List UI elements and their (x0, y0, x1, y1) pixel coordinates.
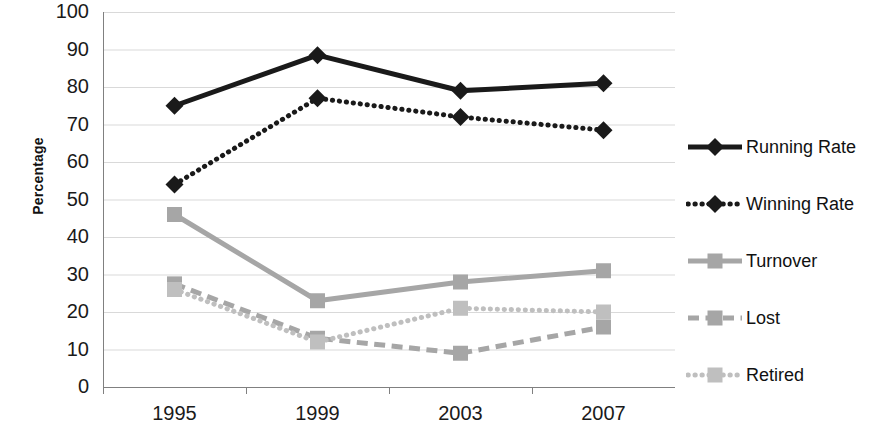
x-axis-tick-1995: 1995 (115, 402, 235, 425)
y-axis-tick-20: 20 (37, 301, 89, 321)
legend-label-turnover: Turnover (744, 251, 817, 272)
legend-swatch-lost (686, 307, 744, 329)
marker-turnover (310, 293, 325, 308)
series-line-lost (175, 284, 604, 353)
legend-swatch-retired (686, 364, 744, 386)
marker-retired (167, 282, 182, 297)
y-axis-tick-90: 90 (37, 39, 89, 59)
marker-turnover (167, 207, 182, 222)
y-axis-tick-80: 80 (37, 76, 89, 96)
legend-label-lost: Lost (744, 308, 780, 329)
marker-retired (453, 301, 468, 316)
legend-marker-running-rate (706, 138, 724, 156)
marker-lost (596, 320, 611, 335)
legend-item-lost[interactable]: Lost (686, 301, 870, 335)
marker-retired (310, 335, 325, 350)
legend-marker-winning-rate (706, 195, 724, 213)
line-chart: Percentage 1009080706050403020100 199519… (0, 0, 870, 433)
marker-winning-rate (452, 108, 470, 126)
legend-swatch-running-rate (686, 136, 744, 158)
plot-area (103, 12, 675, 387)
marker-running-rate (309, 46, 327, 64)
legend-label-winning-rate: Winning Rate (744, 194, 854, 215)
marker-winning-rate (166, 176, 184, 194)
marker-running-rate (166, 97, 184, 115)
marker-retired (596, 305, 611, 320)
y-axis-tick-50: 50 (37, 189, 89, 209)
legend-item-turnover[interactable]: Turnover (686, 244, 870, 278)
x-axis-tick-1999: 1999 (258, 402, 378, 425)
y-axis-tick-40: 40 (37, 226, 89, 246)
y-axis-tick-0: 0 (37, 376, 89, 396)
x-axis-tick-2003: 2003 (401, 402, 521, 425)
marker-winning-rate (309, 89, 327, 107)
marker-winning-rate (595, 121, 613, 139)
legend-marker-lost (708, 311, 723, 326)
y-axis-tick-60: 60 (37, 151, 89, 171)
y-axis-tick-30: 30 (37, 264, 89, 284)
x-axis-tick-2007: 2007 (544, 402, 664, 425)
y-axis-tick-70: 70 (37, 114, 89, 134)
marker-turnover (596, 263, 611, 278)
y-axis-tick-100: 100 (37, 1, 89, 21)
y-axis-tick-labels: 1009080706050403020100 (33, 0, 89, 433)
legend-item-running-rate[interactable]: Running Rate (686, 130, 870, 164)
series-line-retired (175, 290, 604, 343)
legend-marker-turnover (708, 254, 723, 269)
legend-item-winning-rate[interactable]: Winning Rate (686, 187, 870, 221)
series-line-winning-rate (175, 98, 604, 184)
marker-turnover (453, 275, 468, 290)
legend-swatch-turnover (686, 250, 744, 272)
series-line-turnover (175, 215, 604, 301)
x-axis-tick-labels: 1995199920032007 (103, 396, 675, 432)
series-line-running-rate (175, 55, 604, 106)
y-axis-tick-10: 10 (37, 339, 89, 359)
legend-label-retired: Retired (744, 365, 804, 386)
marker-lost (453, 346, 468, 361)
marker-running-rate (452, 82, 470, 100)
legend-label-running-rate: Running Rate (744, 137, 856, 158)
legend-item-retired[interactable]: Retired (686, 358, 870, 392)
legend-marker-retired (708, 368, 723, 383)
plot-svg (103, 12, 675, 401)
legend-swatch-winning-rate (686, 193, 744, 215)
chart-legend: Running RateWinning RateTurnoverLostReti… (686, 130, 870, 400)
marker-running-rate (595, 74, 613, 92)
